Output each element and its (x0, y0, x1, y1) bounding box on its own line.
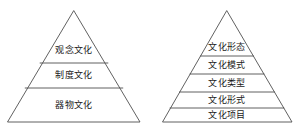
pyramid-diagram-canvas (0, 0, 300, 132)
figure-root: 观念文化 制度文化 器物文化 文化形态 文化模式 文化类型 文化形式 文化项目 (0, 0, 300, 132)
culture-structure-pyramid (8, 11, 140, 122)
pyramid-outline-left (8, 11, 140, 122)
culture-hierarchy-pyramid (163, 11, 292, 122)
pyramid-outline-right (163, 11, 292, 122)
